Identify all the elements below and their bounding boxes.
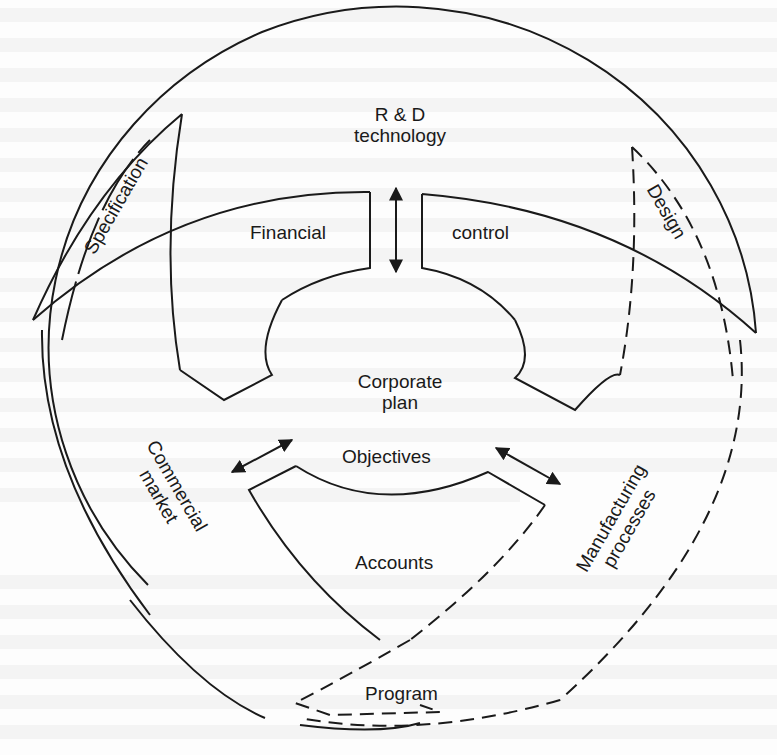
book-page: R & D technology Financial control Corpo…	[0, 0, 777, 755]
commercial-arrow	[232, 440, 292, 472]
rd-label-line2: technology	[344, 125, 456, 146]
control-label: control	[452, 222, 509, 243]
corporate-plan-circle-right	[515, 320, 620, 410]
manufacturing-arrow	[496, 448, 560, 484]
outer-cycle-dashed-right	[560, 340, 742, 700]
design-sliver	[620, 147, 733, 380]
outer-cycle-solid-bottom	[130, 600, 265, 718]
accounts-label: Accounts	[355, 552, 433, 573]
rd-label-line1: R & D	[344, 104, 456, 125]
rd-technology-label: R & D technology	[344, 104, 456, 146]
outer-cycle-bottom-inner	[300, 723, 420, 730]
corporate-plan-line2: plan	[345, 392, 455, 413]
control-segment	[422, 194, 756, 333]
financial-label: Financial	[250, 222, 326, 243]
corporate-plan-label: Corporate plan	[345, 371, 455, 413]
corporate-plan-line1: Corporate	[345, 371, 455, 392]
corporate-plan-circle-left	[180, 300, 282, 400]
objectives-label: Objectives	[342, 446, 431, 467]
program-label: Program	[365, 683, 438, 704]
specification-sliver	[33, 114, 182, 370]
